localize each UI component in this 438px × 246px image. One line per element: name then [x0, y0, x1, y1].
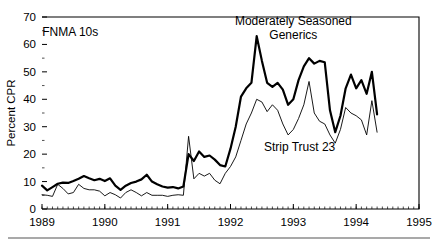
y-tick-label: 20 [23, 148, 36, 160]
y-tick-label: 30 [23, 121, 36, 133]
y-tick-label: 0 [30, 203, 36, 215]
line-chart: 010203040506070 198919901991199219931994… [0, 0, 438, 246]
chart-annotation-label: Moderately Seasoned [235, 14, 352, 28]
y-tick-label: 50 [23, 66, 36, 78]
x-tick-label: 1995 [406, 216, 432, 228]
y-tick-label: 60 [23, 38, 36, 50]
x-tick-label: 1993 [281, 216, 307, 228]
y-tick-label: 40 [23, 93, 36, 105]
x-tick-label: 1994 [343, 216, 369, 228]
x-tick-label: 1991 [155, 216, 181, 228]
x-tick-label: 1992 [218, 216, 244, 228]
y-axis-title: Percent CPR [5, 79, 17, 146]
y-tick-label: 70 [23, 11, 36, 23]
chart-annotation-label: FNMA 10s [42, 25, 98, 39]
x-tick-label: 1989 [29, 216, 55, 228]
chart-figure: 010203040506070 198919901991199219931994… [0, 0, 438, 246]
y-tick-label: 10 [23, 176, 36, 188]
x-tick-label: 1990 [92, 216, 118, 228]
chart-annotation-label: Generics [269, 28, 317, 42]
chart-annotation-label: Strip Trust 23 [264, 140, 336, 154]
